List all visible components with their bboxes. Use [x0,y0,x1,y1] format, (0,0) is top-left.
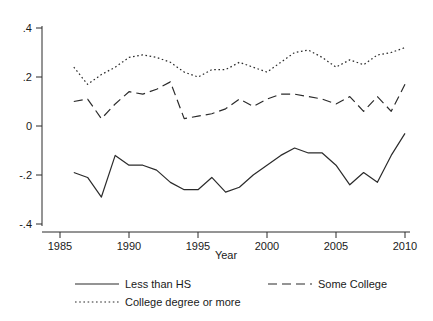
x-tick-label: 2005 [324,240,348,252]
x-axis-title: Year [215,249,238,261]
series-line-some-college [74,82,405,119]
y-tick-label: -.4 [19,218,32,230]
y-tick-label: .2 [23,71,32,83]
y-tick-label: .4 [23,22,32,34]
chart-legend: Less than HSSome CollegeCollege degree o… [75,278,387,308]
series-line-less-than-hs [74,133,405,197]
y-tick-label: -.2 [19,169,32,181]
x-tick-label: 1985 [48,240,72,252]
y-axis: -.4-.20.2.4 [19,22,42,230]
x-tick-label: 1990 [117,240,141,252]
line-chart: -.4-.20.2.4 198519901995200020052010 Yea… [0,0,433,321]
y-axis-ticks: -.4-.20.2.4 [19,22,42,230]
series-line-college-degree-or-more [74,48,405,85]
x-axis: 198519901995200020052010 Year [42,232,417,261]
legend-label-2: Some College [318,278,387,290]
series-lines [74,48,405,197]
x-tick-label: 2000 [255,240,279,252]
x-tick-label: 1995 [186,240,210,252]
legend-label-3: College degree or more [125,296,241,308]
chart-figure: -.4-.20.2.4 198519901995200020052010 Yea… [0,0,433,321]
y-tick-label: 0 [26,120,32,132]
legend-label-1: Less than HS [125,278,191,290]
x-tick-label: 2010 [393,240,417,252]
